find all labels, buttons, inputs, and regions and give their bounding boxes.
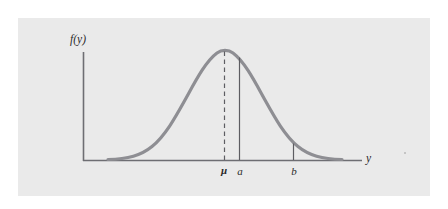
figure-root: f(y) y μ a b bbox=[0, 0, 448, 209]
x-axis-label: y bbox=[366, 153, 371, 165]
tick-label-a: a bbox=[230, 166, 250, 177]
y-axis-label: f(y) bbox=[70, 34, 86, 46]
tick-label-b: b bbox=[284, 166, 304, 177]
normal-distribution-plot bbox=[0, 0, 448, 209]
stray-speck bbox=[404, 152, 406, 154]
